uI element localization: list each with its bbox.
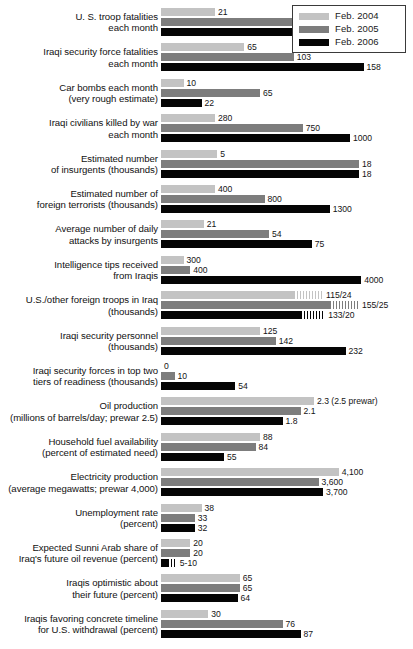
row-label-line: Estimated number [0, 153, 158, 164]
bar-iraqi-security-personnel-2006 [161, 347, 346, 355]
bar-value-unemployment-rate-2006: 32 [198, 523, 208, 533]
row-bars-iraqi-civilians-killed: 2807501000 [161, 114, 413, 148]
bar-track-iraqis-favoring-timeline-2004: 30 [161, 610, 413, 618]
bar-estimated-insurgents-2004 [161, 150, 217, 158]
row-label-daily-attacks: Average number of dailyattacks by insurg… [0, 223, 158, 246]
row-label-intelligence-tips: Intelligence tips receivedfrom Iraqis [0, 259, 158, 282]
bar-foreign-terrorists-2006 [161, 205, 330, 213]
row-label-line: (thousands) [0, 341, 158, 352]
bar-iraqi-civilians-killed-2004 [161, 114, 215, 122]
bar-car-bombs-2004 [161, 79, 184, 87]
row-label-line: from Iraqis [0, 270, 158, 281]
row-bars-oil-production: 2.3 (2.5 prewar)2.11.8 [161, 397, 413, 431]
row-bars-security-forces-readiness: 01054 [161, 362, 413, 396]
bar-iraqis-optimistic-2005 [161, 584, 240, 592]
row-label-iraqi-security-personnel: Iraqi security personnel(thousands) [0, 330, 158, 353]
bar-value-household-fuel-2006: 55 [227, 452, 237, 462]
bar-us-other-foreign-troops-2006 [161, 311, 301, 319]
bar-track-foreign-terrorists-2005: 800 [161, 195, 413, 203]
bar-track-household-fuel-2004: 88 [161, 433, 413, 441]
bar-sunni-oil-revenue-share-2005 [161, 549, 190, 557]
bar-us-troop-fatalities-2006 [161, 28, 301, 36]
bar-track-iraqi-security-force-fatalities-2006: 158 [161, 63, 413, 71]
bar-value-iraqis-favoring-timeline-2005: 76 [286, 619, 296, 629]
row-label-line: each month [0, 129, 158, 140]
row-label-car-bombs: Car bombs each month(very rough estimate… [0, 82, 158, 105]
row-label-line: (percent) [0, 518, 158, 529]
bar-electricity-production-2006 [161, 488, 323, 496]
row-bars-estimated-insurgents: 51818 [161, 150, 413, 184]
row-bars-iraqis-favoring-timeline: 307687 [161, 610, 413, 644]
bar-value-sunni-oil-revenue-share-2005: 20 [193, 548, 203, 558]
bar-us-other-foreign-troops-2005 [161, 301, 330, 309]
bar-track-iraqi-civilians-killed-2006: 1000 [161, 134, 413, 142]
bar-iraqis-optimistic-2006 [161, 594, 238, 602]
bar-track-foreign-terrorists-2004: 400 [161, 185, 413, 193]
bar-daily-attacks-2005 [161, 230, 269, 238]
bar-foreign-terrorists-2005 [161, 195, 265, 203]
row-label-line: of insurgents (thousands) [0, 164, 158, 175]
bar-iraqi-civilians-killed-2006 [161, 134, 350, 142]
bar-track-intelligence-tips-2006: 4000 [161, 276, 413, 284]
row-label-electricity-production: Electricity production(average megawatts… [0, 471, 158, 494]
bar-value-estimated-insurgents-2004: 5 [220, 149, 225, 159]
bar-value-household-fuel-2004: 88 [263, 432, 273, 442]
bar-value-daily-attacks-2004: 21 [207, 219, 217, 229]
bar-track-household-fuel-2005: 84 [161, 443, 413, 451]
row-label-line: each month [0, 58, 158, 69]
bar-security-forces-readiness-2006 [161, 382, 235, 390]
bar-value-sunni-oil-revenue-share-2006: 5-10 [180, 558, 197, 568]
bar-iraqis-optimistic-2004 [161, 574, 240, 582]
bar-value-us-troop-fatalities-2004: 21 [218, 7, 228, 17]
row-label-line: Electricity production [0, 471, 158, 482]
bar-value-intelligence-tips-2005: 400 [193, 265, 207, 275]
row-bars-iraqi-security-personnel: 125142232 [161, 327, 413, 361]
bar-track-unemployment-rate-2006: 32 [161, 524, 413, 532]
bar-unemployment-rate-2006 [161, 524, 195, 532]
bar-iraqi-security-personnel-2004 [161, 327, 260, 335]
row-label-iraqis-favoring-timeline: Iraqis favoring concrete timelinefor U.S… [0, 613, 158, 636]
bar-value-iraqi-security-personnel-2004: 125 [263, 326, 277, 336]
bar-value-iraqi-civilians-killed-2006: 1000 [353, 133, 372, 143]
bar-iraqi-security-force-fatalities-2004 [161, 43, 244, 51]
row-bars-electricity-production: 4,1003,6003,700 [161, 468, 413, 502]
bar-track-sunni-oil-revenue-share-2005: 20 [161, 549, 413, 557]
bar-daily-attacks-2004 [161, 220, 204, 228]
bar-value-us-other-foreign-troops-2004: 115/24 [326, 290, 352, 300]
bar-value-oil-production-2005: 2.1 [304, 406, 316, 416]
chart-row-estimated-insurgents: Estimated numberof insurgents (thousands… [0, 150, 413, 184]
bar-household-fuel-2004 [161, 433, 260, 441]
bar-household-fuel-2006 [161, 453, 224, 461]
bar-value-electricity-production-2004: 4,100 [342, 467, 364, 477]
chart-row-electricity-production: Electricity production(average megawatts… [0, 468, 413, 502]
bar-value-unemployment-rate-2004: 38 [205, 503, 215, 513]
legend-label-2006: Feb. 2006 [335, 37, 379, 47]
bar-track-intelligence-tips-2004: 300 [161, 256, 413, 264]
bar-value-daily-attacks-2006: 75 [315, 239, 325, 249]
row-label-us-other-foreign-troops: U.S./other foreign troops in Iraq(thousa… [0, 294, 158, 317]
bar-track-us-other-foreign-troops-2006: 133/20 [161, 311, 413, 319]
bar-track-us-other-foreign-troops-2004: 115/24 [161, 291, 413, 299]
bar-value-iraqi-security-force-fatalities-2004: 65 [247, 42, 257, 52]
row-label-line: Iraq's future oil revenue (percent) [0, 553, 158, 564]
row-label-line: Iraqis optimistic about [0, 577, 158, 588]
bar-track-daily-attacks-2005: 54 [161, 230, 413, 238]
bar-value-iraqis-optimistic-2006: 64 [241, 593, 251, 603]
bar-value-security-forces-readiness-2005: 10 [178, 371, 188, 381]
bar-track-estimated-insurgents-2005: 18 [161, 160, 413, 168]
bar-us-other-foreign-troops-2004 [161, 291, 294, 299]
bar-value-iraqis-optimistic-2004: 65 [243, 573, 253, 583]
bar-track-sunni-oil-revenue-share-2006: 5-10 [161, 559, 413, 567]
bar-unemployment-rate-2004 [161, 504, 202, 512]
bar-track-sunni-oil-revenue-share-2004: 20 [161, 539, 413, 547]
row-label-foreign-terrorists: Estimated number offoreign terrorists (t… [0, 188, 158, 211]
bar-value-iraqis-favoring-timeline-2006: 87 [304, 629, 314, 639]
bar-car-bombs-2006 [161, 99, 202, 107]
bar-value-us-other-foreign-troops-2006: 133/20 [328, 310, 354, 320]
bar-track-oil-production-2004: 2.3 (2.5 prewar) [161, 397, 413, 405]
chart-legend: Feb. 2004Feb. 2005Feb. 2006 [292, 5, 406, 53]
legend-item-2005: Feb. 2005 [299, 23, 399, 35]
bar-value-intelligence-tips-2004: 300 [187, 255, 201, 265]
row-label-line: U.S./other foreign troops in Iraq [0, 294, 158, 305]
row-label-line: Iraqis favoring concrete timeline [0, 613, 158, 624]
